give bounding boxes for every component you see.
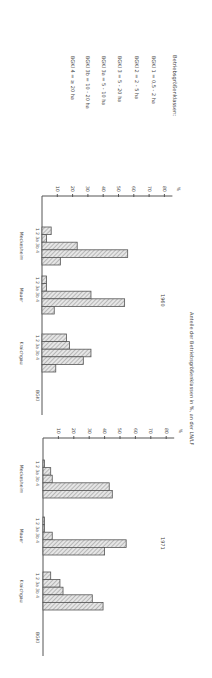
legend-item: BGKl 3 = 5 - 20 ha (117, 56, 123, 102)
legend-item: BGKl 1 = 0,5 - 2 ha (151, 56, 157, 104)
bar-meckesheim-2 (43, 468, 51, 476)
bar-meckesheim-4 (43, 490, 112, 498)
category-labels: 1 2 3a 3b 4 (35, 335, 40, 360)
bar-mauer-4 (42, 306, 54, 314)
bar-meckesheim-1 (43, 460, 45, 468)
bar-kraichgau-3a (43, 587, 63, 595)
tick-label: 30 (85, 186, 90, 192)
legend: Betriebsgrößenklassen: BGKl 1 = 0,5 - 2 … (70, 55, 178, 116)
legend-item: BGKl 3a = 5 - 10 ha (101, 56, 107, 105)
chart-title: Anteile der Betriebsgrößenklassen in %, … (188, 312, 195, 445)
bar-kraichgau-1 (43, 572, 51, 580)
tick-label: 20 (71, 428, 76, 434)
category-labels: 1 2 3a 3b 4 (35, 228, 40, 253)
group-label: Meckesheim (19, 465, 24, 494)
group-label: Mauer (19, 288, 24, 303)
bar-meckesheim-3a (42, 242, 77, 250)
tick-label: 20 (70, 186, 75, 192)
category-labels: 1 2 3a 3b 4 (35, 518, 40, 543)
figure: Betriebsgrößenklassen: BGKl 1 = 0,5 - 2 … (0, 0, 212, 678)
tick-label: 40 (101, 186, 106, 192)
bar-meckesheim-3b (43, 483, 109, 491)
tick-label: 60 (133, 428, 138, 434)
bar-meckesheim-2 (42, 235, 47, 243)
unit-label: % (178, 429, 183, 434)
category-labels: 1 2 3a 3b 4 (35, 461, 40, 486)
bar-kraichgau-2 (42, 342, 70, 350)
bar-mauer-1 (43, 517, 45, 525)
category-labels: 1 2 3a 3b 4 (35, 573, 40, 598)
bar-mauer-1 (42, 276, 47, 284)
group-label: Kraichgau (19, 579, 24, 602)
chart-svg: Betriebsgrößenklassen: BGKl 1 = 0,5 - 2 … (0, 0, 212, 678)
tick-label: 60 (131, 186, 136, 192)
bar-kraichgau-3a (42, 349, 91, 357)
bar-mauer-2 (42, 284, 47, 292)
bar-meckesheim-1 (42, 227, 51, 235)
bar-kraichgau-3b (42, 357, 83, 365)
bar-mauer-2 (43, 525, 45, 533)
tick-label: 70 (148, 428, 153, 434)
tick-label: 80 (164, 428, 169, 434)
bar-kraichgau-3b (43, 595, 92, 603)
tick-label: 10 (55, 186, 60, 192)
tick-label: 50 (117, 428, 122, 434)
bar-meckesheim-3a (43, 475, 52, 483)
bar-meckesheim-3b (42, 250, 128, 258)
bar-mauer-3b (43, 540, 126, 548)
chart-panel-1971: 1020304050607080%1 2 3a 3b 4Meckesheim1 … (19, 428, 183, 656)
bar-mauer-3a (43, 532, 52, 540)
tick-label: 50 (116, 186, 121, 192)
legend-item: BGKl 3b = 10 - 20 ha (85, 56, 91, 109)
tick-label: 10 (56, 428, 61, 434)
tick-label: 80 (162, 186, 167, 192)
category-axis-label: BGKl (35, 390, 40, 401)
chart-panel-1960: 1020304050607080%1 2 3a 3b 4Meckesheim1 … (19, 186, 181, 415)
tick-label: 70 (147, 186, 152, 192)
tick-label: 30 (87, 428, 92, 434)
bar-mauer-3b (42, 299, 125, 307)
bar-mauer-4 (43, 547, 105, 555)
bar-mauer-3a (42, 291, 91, 299)
bar-kraichgau-4 (42, 364, 56, 372)
bar-kraichgau-1 (42, 334, 66, 342)
group-label: Kraichgau (19, 341, 24, 364)
category-labels: 1 2 3a 3b 4 (35, 277, 40, 302)
tick-label: 40 (102, 428, 107, 434)
bar-kraichgau-4 (43, 602, 103, 610)
group-label: Mauer (19, 529, 24, 544)
legend-title: Betriebsgrößenklassen: (171, 55, 178, 116)
panel-label-1960: 1960 (160, 294, 166, 307)
legend-item: BGKl 2 = 2 - 5 ha (134, 56, 140, 99)
legend-item: BGKl 4 = ≥ 20 ha (70, 56, 76, 100)
bar-kraichgau-2 (43, 580, 60, 588)
unit-label: % (176, 187, 181, 192)
bar-meckesheim-4 (42, 257, 60, 265)
category-axis-label: BGKl (35, 632, 40, 643)
panel-label-1971: 1971 (160, 537, 166, 550)
group-label: Meckesheim (19, 232, 24, 261)
